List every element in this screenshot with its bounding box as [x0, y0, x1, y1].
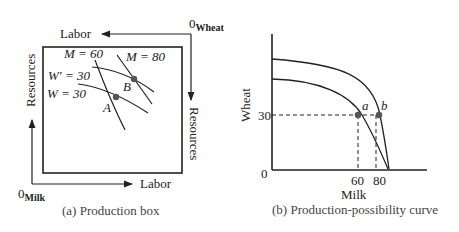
production-box-panel: Labor Labor Resources Resources 0Wheat 0… [18, 16, 225, 218]
y-axis-label: Wheat [238, 88, 253, 122]
label-b: b [381, 98, 388, 113]
figure: Labor Labor Resources Resources 0Wheat 0… [0, 0, 459, 232]
label-m80: M = 80 [125, 49, 166, 64]
label-w-prime-30: W′ = 30 [48, 68, 90, 83]
point-B [131, 76, 137, 82]
ppf-panel: a b 30 0 60 80 Milk Wheat (b) Production… [238, 34, 438, 217]
origin-milk: 0Milk [18, 186, 45, 203]
label-B: B [123, 79, 131, 94]
bottom-labor-label: Labor [140, 176, 172, 191]
ppf-outer [272, 59, 389, 169]
label-w30: W = 30 [47, 86, 87, 101]
label-m60: M = 60 [63, 46, 104, 61]
point-a [355, 112, 361, 118]
top-labor-label: Labor [60, 26, 92, 41]
x-tick-80: 80 [373, 173, 386, 188]
y-tick-30: 30 [258, 108, 271, 123]
x-tick-60: 60 [351, 173, 364, 188]
origin-wheat: 0Wheat [189, 16, 225, 33]
production-box-frame [43, 47, 182, 173]
label-a: a [362, 98, 369, 113]
caption-b: (b) Production-possibility curve [272, 202, 438, 217]
caption-a: (a) Production box [62, 203, 160, 218]
label-A: A [102, 100, 111, 115]
origin-label: 0 [261, 166, 268, 181]
x-axis-label: Milk [341, 187, 367, 202]
right-resources-label: Resources [187, 107, 202, 160]
left-resources-label: Resources [23, 54, 38, 107]
point-A [113, 94, 119, 100]
isoquant-w30 [78, 84, 148, 113]
